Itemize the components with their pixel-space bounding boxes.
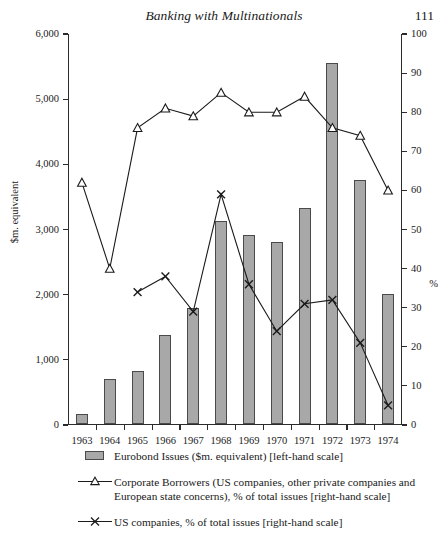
- y-tick: [63, 164, 68, 165]
- triangle-marker: [384, 186, 393, 194]
- x-tick-label: 1974: [378, 436, 399, 446]
- x-tick-label: 1966: [155, 436, 176, 446]
- x-tick-label: 1968: [211, 436, 232, 446]
- chart-page: Banking with Multinationals 111 $m. equi…: [0, 0, 448, 560]
- y2-axis-title: %: [429, 278, 438, 289]
- triangle-marker-icon: [78, 475, 112, 488]
- y2-tick: [402, 190, 407, 191]
- legend-label: US companies, % of total issues [right-h…: [114, 515, 342, 530]
- y2-tick-label: 0: [411, 420, 416, 430]
- legend-label: Eurobond Issues ($m. equivalent) [left-h…: [114, 449, 343, 464]
- x-tick-label: 1970: [266, 436, 287, 446]
- x-tick-label: 1969: [238, 436, 259, 446]
- triangle-marker: [78, 178, 87, 186]
- x-marker: [273, 327, 281, 335]
- x-tick-label: 1967: [183, 436, 204, 446]
- triangle-marker: [217, 88, 226, 96]
- y2-tick: [402, 268, 407, 269]
- y-tick: [63, 229, 68, 230]
- y2-tick-label: 90: [411, 68, 422, 78]
- y2-tick: [402, 229, 407, 230]
- y2-tick-label: 10: [411, 381, 422, 391]
- x-marker: [162, 273, 170, 281]
- x-marker: [134, 288, 142, 296]
- y-tick: [63, 294, 68, 295]
- x-tick: [235, 425, 236, 430]
- lines-layer: [68, 34, 402, 425]
- x-marker: [189, 308, 197, 316]
- page-title: Banking with Multinationals: [0, 8, 448, 24]
- y2-tick: [402, 346, 407, 347]
- x-tick-label: 1973: [350, 436, 371, 446]
- x-marker: [245, 280, 253, 288]
- y2-tick-label: 80: [411, 107, 422, 117]
- y-tick-label: 3,000: [35, 225, 59, 235]
- y2-tick-label: 60: [411, 185, 422, 195]
- y2-tick: [402, 307, 407, 308]
- y-tick-label: 0: [54, 420, 59, 430]
- legend-label: Corporate Borrowers (US companies, other…: [114, 475, 434, 504]
- x-tick-label: 1972: [322, 436, 343, 446]
- y-axis-title: $m. equivalent: [9, 181, 20, 243]
- y-tick: [63, 424, 68, 425]
- legend-key-swatch: [68, 449, 114, 462]
- x-tick-label: 1964: [99, 436, 120, 446]
- x-tick: [96, 425, 97, 430]
- y-tick-label: 6,000: [35, 29, 59, 39]
- x-tick: [346, 425, 347, 430]
- x-tick-label: 1965: [127, 436, 148, 446]
- y-tick: [63, 33, 68, 34]
- x-marker: [384, 402, 392, 410]
- y-tick-label: 1,000: [35, 355, 59, 365]
- bar-swatch-icon: [85, 451, 104, 460]
- triangle-marker: [133, 124, 142, 132]
- triangle-marker: [161, 104, 170, 112]
- x-tick: [319, 425, 320, 430]
- x-tick: [124, 425, 125, 430]
- y-tick-label: 4,000: [35, 159, 59, 169]
- x-tick: [152, 425, 153, 430]
- page-number: 111: [415, 8, 434, 24]
- y-tick-label: 5,000: [35, 94, 59, 104]
- x-marker: [356, 339, 364, 347]
- y2-tick: [402, 73, 407, 74]
- x-tick: [207, 425, 208, 430]
- y2-tick-label: 70: [411, 146, 422, 156]
- y2-tick: [402, 33, 407, 34]
- legend-key-triangle: [68, 475, 114, 488]
- legend-key-x: [68, 515, 114, 528]
- x-marker: [217, 190, 225, 198]
- y2-tick: [402, 424, 407, 425]
- y2-tick-label: 100: [411, 29, 427, 39]
- triangle-marker: [300, 92, 309, 100]
- y-tick: [63, 359, 68, 360]
- legend-item-us-companies: US companies, % of total issues [right-h…: [68, 515, 434, 530]
- y2-tick-label: 20: [411, 342, 422, 352]
- x-tick: [374, 425, 375, 430]
- legend-item-eurobond-issues: Eurobond Issues ($m. equivalent) [left-h…: [68, 449, 434, 464]
- y-tick-label: 2,000: [35, 290, 59, 300]
- y2-tick-label: 40: [411, 264, 422, 274]
- x-marker-icon: [78, 515, 112, 528]
- x-tick-label: 1963: [71, 436, 92, 446]
- legend-item-corporate-borrowers: Corporate Borrowers (US companies, other…: [68, 475, 434, 504]
- series-line: [82, 93, 388, 269]
- triangle-marker: [105, 264, 114, 272]
- x-tick: [179, 425, 180, 430]
- y2-tick: [402, 385, 407, 386]
- running-head: Banking with Multinationals 111: [0, 8, 448, 30]
- y2-tick-label: 30: [411, 303, 422, 313]
- x-tick-label: 1971: [294, 436, 315, 446]
- y-tick: [63, 99, 68, 100]
- y2-tick: [402, 151, 407, 152]
- y2-tick: [402, 112, 407, 113]
- chart-legend: Eurobond Issues ($m. equivalent) [left-h…: [68, 449, 434, 540]
- series-line: [138, 194, 389, 405]
- x-tick: [291, 425, 292, 430]
- y2-tick-label: 50: [411, 225, 422, 235]
- x-tick: [263, 425, 264, 430]
- plot-area: 01,0002,0003,0004,0005,0006,000 01020304…: [68, 34, 402, 425]
